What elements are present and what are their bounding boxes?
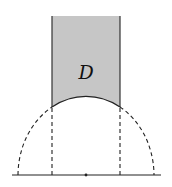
diagram-canvas: D (0, 0, 172, 187)
dashed-semicircle-left (18, 107, 52, 175)
origin-dot (85, 174, 88, 177)
region-label: D (77, 61, 93, 83)
fundamental-domain-diagram: D (0, 0, 172, 187)
dashed-semicircle-right (120, 107, 154, 175)
